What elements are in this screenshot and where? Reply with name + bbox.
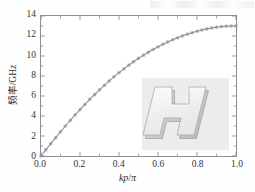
data-point <box>229 24 233 28</box>
data-point <box>73 113 77 117</box>
y-tick-label: 0 <box>31 152 36 162</box>
data-point <box>122 67 126 71</box>
data-point <box>171 38 175 42</box>
data-point <box>132 60 136 64</box>
data-point <box>151 48 155 52</box>
x-tick-label: 0.2 <box>73 160 85 170</box>
data-point <box>112 75 116 79</box>
data-point <box>54 136 58 140</box>
y-tick-labels: 02468101214 <box>18 0 36 192</box>
scan-artifact <box>150 1 254 8</box>
y-tick-label: 14 <box>27 10 37 20</box>
y-tick-label: 8 <box>31 71 36 81</box>
data-point <box>156 45 160 49</box>
data-point <box>83 103 87 107</box>
h-resonator-illustration <box>142 78 229 150</box>
data-point <box>117 71 121 75</box>
data-point <box>44 148 48 152</box>
data-point <box>161 42 165 46</box>
plot-area <box>40 15 237 157</box>
figure-canvas: 0.00.20.40.60.81.0 02468101214 kp/π 频率/G… <box>0 0 255 192</box>
x-axis-title-italic: kp <box>119 172 128 183</box>
data-point <box>93 93 97 97</box>
data-point <box>98 88 102 92</box>
data-point <box>166 40 170 44</box>
data-point <box>210 26 214 30</box>
x-tick-label: 0.6 <box>152 160 164 170</box>
data-point <box>39 154 43 158</box>
data-point <box>107 79 111 83</box>
y-tick-label: 12 <box>27 31 37 41</box>
data-point <box>59 130 63 134</box>
data-point <box>234 24 238 28</box>
data-point <box>176 36 180 40</box>
data-point <box>146 50 150 54</box>
x-axis-title-pi: π <box>131 172 136 183</box>
y-tick-label: 4 <box>31 112 36 122</box>
data-point <box>219 25 223 29</box>
data-point <box>88 98 92 102</box>
data-point <box>49 142 53 146</box>
data-point <box>63 124 67 128</box>
x-tick-label: 0.4 <box>113 160 125 170</box>
x-tick-label: 1.0 <box>231 160 243 170</box>
data-point <box>224 24 228 28</box>
data-point <box>195 29 199 33</box>
data-point <box>190 31 194 35</box>
y-tick-label: 10 <box>27 51 37 61</box>
data-point <box>185 32 189 36</box>
data-point <box>102 83 106 87</box>
data-point <box>127 63 131 67</box>
data-point <box>180 34 184 38</box>
data-point <box>68 119 72 123</box>
y-tick-label: 2 <box>31 132 36 142</box>
data-point <box>141 53 145 57</box>
data-point <box>205 27 209 31</box>
x-axis-title: kp/π <box>0 172 255 183</box>
y-tick-label: 6 <box>31 91 36 101</box>
data-point <box>137 57 141 61</box>
data-point <box>78 108 82 112</box>
x-tick-label: 0.8 <box>192 160 204 170</box>
inset-structure-image <box>142 78 229 150</box>
y-axis-title: 频率/GHz <box>5 47 19 123</box>
data-point <box>215 25 219 29</box>
data-point <box>200 28 204 32</box>
